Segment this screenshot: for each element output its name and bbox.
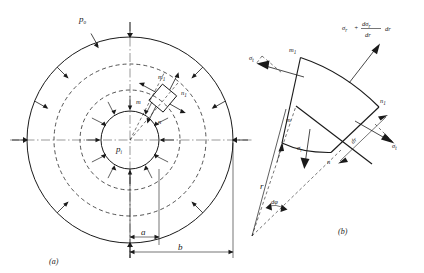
label-sigma-r-inner: σr <box>297 144 303 153</box>
label-m1-b: m1 <box>289 46 297 55</box>
label-radial-stress-increment-formula: σr + dσr dr dr <box>342 20 391 38</box>
arrow-tangential-stress-right <box>355 121 395 144</box>
formula-sigma-r: σr <box>342 24 348 33</box>
label-n-a: n <box>158 118 161 125</box>
subfigure-a: m1 n1 m n po pi a b <box>10 14 252 266</box>
label-outer-pressure: po <box>78 14 87 25</box>
figure-svg: m1 n1 m n po pi a b <box>0 0 424 273</box>
dimension-r: r <box>260 142 284 191</box>
label-m-b: m <box>286 116 291 123</box>
formula-plus: + <box>354 24 358 31</box>
element-radial-rays <box>130 72 179 140</box>
caption-subfigure-b: (b) <box>338 227 348 236</box>
stress-element-a <box>149 84 177 112</box>
dimension-b: b <box>130 242 234 254</box>
label-n1-a: n1 <box>181 89 187 98</box>
formula-denominator: dr <box>365 31 371 38</box>
ray-left-solid <box>252 109 286 236</box>
label-sigma-t-left: σt <box>249 54 254 63</box>
formula-tail-dr: dr <box>385 25 391 32</box>
label-dim-a: a <box>141 227 146 237</box>
subfigure-b: dr r dφ m1 n1 m n σt σt <box>249 20 397 236</box>
label-dim-b: b <box>178 242 183 252</box>
label-r-b: r <box>260 181 264 191</box>
arrow-radial-stress-increment <box>349 44 380 84</box>
label-n1-b: n1 <box>380 97 386 106</box>
dimension-a: a <box>130 227 160 239</box>
figure-root: m1 n1 m n po pi a b <box>0 0 424 273</box>
ray-left-dashed <box>252 106 296 236</box>
label-n-b: n <box>327 158 330 165</box>
caption-subfigure-a: (a) <box>49 257 59 266</box>
label-dr-b: dr <box>349 135 358 144</box>
label-dphi-b: dφ <box>271 198 278 205</box>
label-inner-pressure: pi <box>115 144 123 155</box>
formula-numerator: dσr <box>362 20 371 29</box>
label-m1-a: m1 <box>158 73 166 82</box>
label-m-a: m <box>136 98 141 105</box>
label-sigma-t-right: σt <box>392 142 397 151</box>
